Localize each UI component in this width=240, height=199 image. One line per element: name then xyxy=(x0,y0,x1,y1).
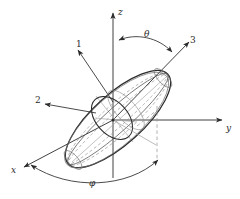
projection-lines xyxy=(113,106,157,159)
z-axis-label: z xyxy=(118,8,123,17)
angle-phi-label: φ xyxy=(89,179,95,188)
principal-axis-2-label: 2 xyxy=(35,96,41,105)
axis-2-leader xyxy=(45,104,96,113)
ellipsoid-tip-cap-upper xyxy=(151,66,174,91)
principal-axis-3-label: 3 xyxy=(190,36,196,45)
origin-point xyxy=(112,119,115,122)
ellipsoid-body xyxy=(51,56,184,183)
principal-axis-1-label: 1 xyxy=(76,40,82,49)
principal-axis-pointers xyxy=(45,50,113,113)
x-axis-label: x xyxy=(11,166,16,175)
y-axis-label: y xyxy=(226,124,231,133)
figure-canvas: z y x 1 2 3 θ φ xyxy=(0,0,240,199)
angle-theta-label: θ xyxy=(144,30,149,39)
